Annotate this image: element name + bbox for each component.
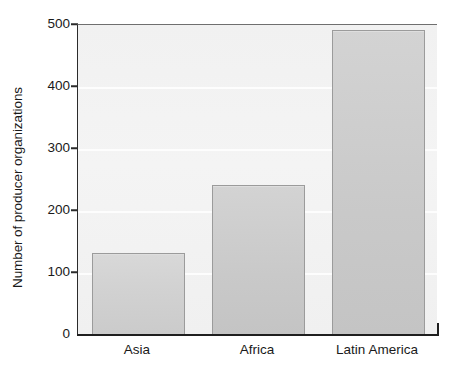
y-axis-tick-labels: 0100200300400500	[26, 0, 70, 375]
plot-area	[77, 24, 437, 334]
bar-africa	[212, 185, 305, 334]
y-tick-label-500: 500	[30, 17, 70, 31]
y-tick-label-400: 400	[30, 79, 70, 93]
x-axis-line	[77, 334, 439, 336]
x-axis-right-cap	[437, 323, 439, 335]
y-tick-label-100: 100	[30, 265, 70, 279]
x-tick-label-asia: Asia	[124, 339, 150, 361]
y-tick-label-300: 300	[30, 141, 70, 155]
y-tick-label-0: 0	[30, 327, 70, 341]
y-tick-label-200: 200	[30, 203, 70, 217]
bar-chart-figure: Number of producer organizations 0100200…	[0, 0, 467, 375]
x-axis-tick-labels: AsiaAfricaLatin America	[77, 339, 437, 365]
bar-latin-america	[332, 30, 425, 334]
bar-asia	[92, 253, 185, 334]
x-tick-label-latin-america: Latin America	[336, 339, 418, 361]
x-tick-label-africa: Africa	[240, 339, 275, 361]
